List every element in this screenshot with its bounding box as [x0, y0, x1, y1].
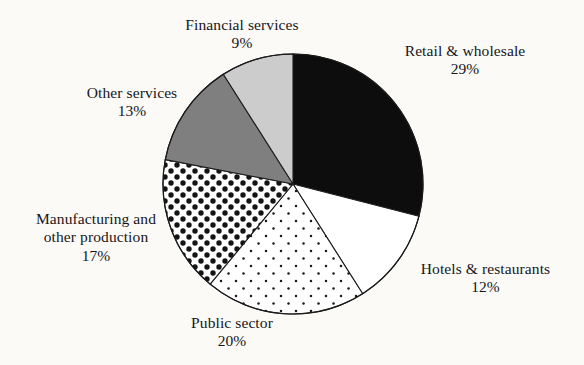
pie-label-retail-wholesale-percent: 29% — [370, 60, 560, 78]
pie-chart: Financial services 9% Retail & wholesale… — [0, 0, 584, 365]
pie-label-financial-services-name: Financial services — [152, 16, 332, 34]
pie-label-other-services: Other services 13% — [52, 84, 212, 121]
pie-label-public-sector: Public sector 20% — [152, 314, 312, 351]
pie-label-hotels-restaurants-name: Hotels & restaurants — [398, 260, 573, 278]
pie-label-manufacturing-name-line2: other production — [6, 228, 186, 246]
pie-label-financial-services: Financial services 9% — [152, 16, 332, 53]
pie-label-hotels-restaurants: Hotels & restaurants 12% — [398, 260, 573, 297]
pie-label-manufacturing-name-line1: Manufacturing and — [6, 210, 186, 228]
pie-label-retail-wholesale-name: Retail & wholesale — [370, 42, 560, 60]
pie-label-hotels-restaurants-percent: 12% — [398, 278, 573, 296]
pie-label-other-services-percent: 13% — [52, 102, 212, 120]
pie-label-public-sector-percent: 20% — [152, 332, 312, 350]
pie-label-public-sector-name: Public sector — [152, 314, 312, 332]
pie-label-other-services-name: Other services — [52, 84, 212, 102]
pie-label-retail-wholesale: Retail & wholesale 29% — [370, 42, 560, 79]
pie-label-financial-services-percent: 9% — [152, 34, 332, 52]
pie-label-manufacturing: Manufacturing and other production 17% — [6, 210, 186, 265]
pie-label-manufacturing-percent: 17% — [6, 247, 186, 265]
